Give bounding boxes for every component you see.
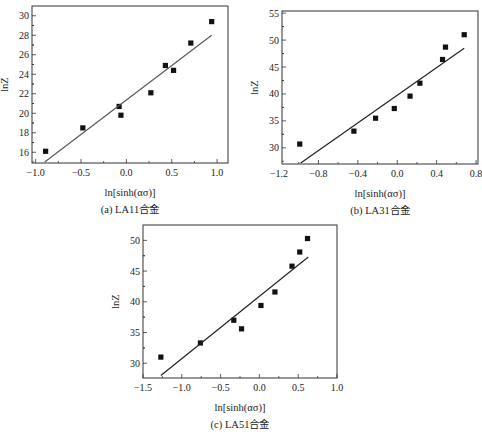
data-point	[188, 40, 193, 45]
x-tick-label: 0.0	[120, 167, 133, 178]
data-point	[209, 19, 214, 24]
y-tick-label: 45	[269, 62, 279, 73]
x-axis-label: ln[sinh(ασ)]	[105, 187, 156, 199]
chart-panel-a: −1.0−0.50.00.51.01618202224262830ln[sinh…	[0, 6, 228, 216]
data-point	[462, 32, 467, 37]
data-point	[258, 303, 263, 308]
x-tick-label: 1.0	[331, 382, 344, 393]
y-axis-label: lnZ	[110, 294, 121, 309]
figure-caption: (a) LA11合金	[101, 203, 160, 216]
x-tick-label: −0.5	[72, 167, 90, 178]
data-point	[171, 68, 176, 73]
x-axis-label: ln[sinh(ασ)]	[355, 188, 406, 200]
data-point	[297, 249, 302, 254]
y-axis-label: lnZ	[0, 77, 10, 92]
y-tick-label: 30	[19, 10, 29, 21]
data-point	[297, 141, 302, 146]
y-tick-label: 20	[19, 108, 29, 119]
x-tick-label: −1.0	[27, 167, 45, 178]
x-tick-label: −0.5	[212, 382, 230, 393]
y-tick-label: 16	[19, 147, 29, 158]
x-tick-label: 0.0	[253, 382, 266, 393]
y-tick-label: 26	[19, 49, 29, 60]
fit-line	[45, 35, 212, 162]
y-tick-label: 40	[269, 88, 279, 99]
data-point	[373, 116, 378, 121]
x-tick-label: −0.4	[349, 168, 367, 179]
y-tick-label: 35	[130, 327, 140, 338]
data-point	[163, 63, 168, 68]
data-point	[351, 129, 356, 134]
data-point	[80, 125, 85, 130]
y-tick-label: 18	[19, 127, 29, 138]
data-point	[118, 113, 123, 118]
x-tick-label: −1.2	[270, 168, 288, 179]
figure-caption: (c) LA51合金	[211, 418, 271, 431]
y-tick-label: 22	[19, 88, 29, 99]
x-tick-label: 0.0	[391, 168, 404, 179]
x-axis-label: ln[sinh(ασ)]	[215, 402, 266, 414]
x-tick-label: −1.5	[134, 382, 152, 393]
data-point	[392, 106, 397, 111]
x-tick-label: 0.5	[292, 382, 305, 393]
data-point	[43, 149, 48, 154]
data-point	[158, 355, 163, 360]
x-tick-label: −0.8	[309, 168, 327, 179]
data-point	[239, 326, 244, 331]
y-tick-label: 24	[19, 69, 29, 80]
y-tick-label: 45	[130, 266, 140, 277]
figure-canvas: −1.0−0.50.00.51.01618202224262830ln[sinh…	[0, 0, 482, 437]
plot-frame	[282, 11, 478, 164]
fit-line	[161, 257, 308, 376]
data-point	[305, 236, 310, 241]
y-axis-label: lnZ	[249, 80, 260, 95]
y-tick-label: 55	[269, 8, 279, 19]
y-tick-label: 30	[269, 142, 279, 153]
data-point	[443, 44, 448, 49]
data-point	[440, 57, 445, 62]
data-point	[407, 94, 412, 99]
plot-frame	[143, 225, 337, 378]
data-point	[417, 81, 422, 86]
x-tick-label: −1.0	[173, 382, 191, 393]
data-point	[148, 90, 153, 95]
y-tick-label: 30	[130, 358, 140, 369]
x-tick-label: 1.0	[211, 167, 224, 178]
plot-frame	[32, 6, 228, 163]
x-tick-label: 0.8	[470, 168, 482, 179]
y-tick-label: 50	[269, 35, 279, 46]
y-tick-label: 35	[269, 115, 279, 126]
figure-caption: (b) LA31合金	[350, 204, 410, 217]
data-point	[272, 289, 277, 294]
chart-panel-c: −1.5−1.0−0.50.00.51.03035404550ln[sinh(α…	[110, 225, 343, 431]
x-tick-label: 0.5	[165, 167, 178, 178]
chart-panel-b: −1.2−0.8−0.40.00.40.8303540455055ln[sinh…	[249, 8, 482, 217]
y-tick-label: 28	[19, 30, 29, 41]
x-tick-label: 0.4	[430, 168, 443, 179]
fit-line	[301, 48, 464, 163]
y-tick-label: 40	[130, 296, 140, 307]
y-tick-label: 50	[130, 235, 140, 246]
